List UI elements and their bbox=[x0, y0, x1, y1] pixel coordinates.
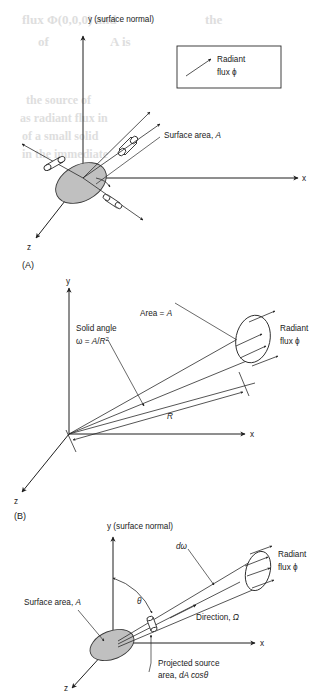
panel-c-theta-label: θ bbox=[137, 597, 142, 606]
panel-a-legend: Radiant flux ϕ bbox=[177, 46, 281, 88]
panel-c: y (surface normal) x z dω θ Surface area… bbox=[24, 522, 307, 693]
panel-a-y-axis-label: y (surface normal) bbox=[88, 15, 154, 24]
panel-a-flux-tube bbox=[102, 193, 123, 210]
panel-b-area-leader bbox=[175, 303, 237, 340]
panel-b: y x z Area = A Solid angle ω = A/R2 R Ra… bbox=[14, 277, 309, 521]
panel-c-surface-area-label: Surface area, A bbox=[24, 598, 81, 607]
panel-c-projected-line2: area, dA cosθ bbox=[158, 671, 209, 680]
legend-label-line1: Radiant bbox=[217, 55, 246, 64]
panel-b-solid-angle-line2: ω = A/R2 bbox=[76, 336, 109, 346]
panel-c-surface-leader bbox=[78, 610, 104, 641]
panel-b-z-axis-label: z bbox=[14, 497, 18, 506]
panel-b-caption: (B) bbox=[14, 511, 26, 521]
panel-c-projected-line1: Projected source bbox=[158, 659, 220, 668]
panel-c-solid-angle-leader bbox=[188, 549, 214, 585]
bleed-line: as radiant flux in bbox=[20, 111, 108, 125]
panel-b-y-axis-label: y bbox=[66, 277, 71, 286]
panel-a-z-axis-label: z bbox=[27, 243, 31, 252]
bleed-line: A is bbox=[110, 34, 131, 49]
legend-label-line2: flux ϕ bbox=[217, 68, 237, 77]
panel-b-cone-lower-edge bbox=[69, 383, 255, 434]
panel-a-x-axis-label: x bbox=[302, 174, 306, 183]
panel-b-radius-label: R bbox=[167, 412, 173, 421]
panel-b-solid-angle-leader bbox=[108, 340, 144, 406]
bleed-line: of bbox=[38, 34, 50, 49]
figure-canvas: flux Φ(0,0,0) and the of A is the source… bbox=[0, 0, 331, 693]
panel-c-flux-line1: Radiant bbox=[278, 550, 307, 559]
panel-c-theta-arc bbox=[113, 578, 152, 613]
panel-c-surface-disc bbox=[85, 623, 138, 666]
panel-c-x-axis-label: x bbox=[260, 639, 264, 648]
panel-c-solid-angle-label: dω bbox=[176, 542, 188, 551]
panel-b-z-axis bbox=[22, 434, 69, 492]
legend-box-frame bbox=[177, 46, 281, 88]
bleed-line: the source of bbox=[26, 93, 92, 107]
panel-c-cone-lower-edge bbox=[118, 586, 262, 647]
panel-c-direction-label: Direction, Ω bbox=[196, 613, 239, 622]
panel-b-cone-upper-edge bbox=[69, 336, 243, 434]
panel-b-flux-line2: flux ϕ bbox=[280, 337, 300, 346]
panel-a-surface-area-label: Surface area, A bbox=[164, 131, 221, 140]
panel-c-flux-line2: flux ϕ bbox=[278, 563, 298, 572]
panel-c-y-axis-label: y (surface normal) bbox=[107, 522, 173, 531]
panel-b-area-label: Area = A bbox=[140, 309, 173, 318]
panel-b-x-axis-label: x bbox=[250, 430, 254, 439]
bleed-line: the bbox=[205, 12, 223, 27]
panel-b-cone-axis bbox=[69, 360, 249, 434]
panel-c-aperture-ellipse bbox=[241, 549, 275, 594]
radiometry-figure: flux Φ(0,0,0) and the of A is the source… bbox=[0, 0, 331, 693]
panel-c-projected-leader-foot bbox=[149, 663, 151, 672]
panel-c-z-axis-label: z bbox=[64, 684, 68, 693]
panel-b-solid-angle-line1: Solid angle bbox=[76, 324, 117, 333]
panel-a-caption: (A) bbox=[22, 260, 34, 270]
panel-c-direction-arrow bbox=[170, 605, 196, 618]
panel-b-radius-dimension bbox=[73, 392, 243, 440]
bleed-line: of a small solid bbox=[22, 129, 99, 143]
panel-b-flux-line1: Radiant bbox=[280, 324, 309, 333]
